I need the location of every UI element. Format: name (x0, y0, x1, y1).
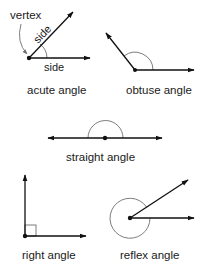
obtuse-diagonal-ray (106, 33, 135, 70)
obtuse-vertex-dot (133, 68, 137, 72)
acute-angle-figure: vertex side side acute angle (10, 9, 90, 96)
obtuse-angle-label: obtuse angle (126, 84, 192, 96)
right-angle-figure: right angle (22, 175, 86, 261)
straight-angle-label: straight angle (66, 151, 135, 163)
reflex-vertex-dot (128, 216, 132, 220)
angle-types-diagram: vertex side side acute angle obtuse angl… (0, 0, 215, 268)
reflex-angle-figure: reflex angle (110, 180, 194, 261)
acute-side-label-horizontal: side (44, 61, 64, 73)
straight-angle-arc (88, 121, 123, 138)
right-angle-square-marker (25, 225, 36, 236)
vertex-label: vertex (10, 9, 42, 21)
reflex-angle-label: reflex angle (120, 249, 179, 261)
acute-side-label-diagonal: side (31, 23, 54, 46)
right-vertex-dot (23, 234, 27, 238)
right-angle-label: right angle (22, 249, 76, 261)
straight-angle-figure: straight angle (48, 121, 162, 163)
acute-angle-label: acute angle (27, 84, 86, 96)
straight-vertex-dot (103, 136, 107, 140)
obtuse-angle-figure: obtuse angle (106, 33, 194, 96)
reflex-diagonal-ray (130, 180, 188, 218)
vertex-pointer-arrow (19, 24, 27, 54)
acute-vertex-dot (27, 56, 31, 60)
